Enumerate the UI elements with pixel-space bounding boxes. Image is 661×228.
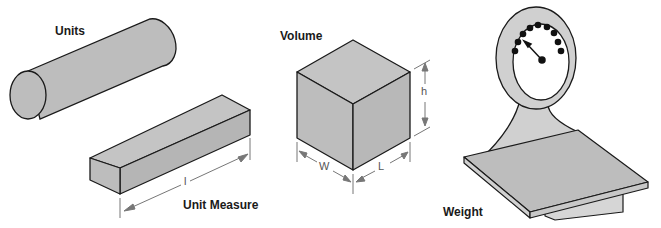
dim-width: W bbox=[319, 160, 329, 172]
cube-shape bbox=[297, 40, 410, 170]
label-weight: Weight bbox=[443, 205, 483, 219]
label-units: Units bbox=[55, 24, 85, 38]
dim-length-small: l bbox=[184, 175, 186, 187]
bar-shape bbox=[90, 95, 250, 194]
dim-height: h bbox=[421, 85, 427, 97]
scale-platform bbox=[464, 130, 648, 220]
dim-length: L bbox=[378, 160, 384, 172]
measurement-diagram bbox=[0, 0, 661, 228]
cylinder-shape bbox=[10, 19, 176, 119]
label-volume: Volume bbox=[280, 29, 322, 43]
label-unit-measure: Unit Measure bbox=[183, 198, 258, 212]
